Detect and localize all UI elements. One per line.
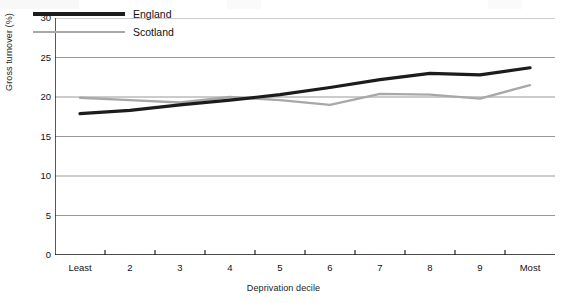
x-axis-title: Deprivation decile [0,283,567,293]
x-tick-label: 6 [304,262,356,273]
plot-svg [55,18,555,255]
legend-swatch-england-icon [33,12,125,15]
x-tick-label: Most [504,262,556,273]
x-tick-label: 4 [204,262,256,273]
x-tick-label: 8 [404,262,456,273]
y-tick-label: 0 [23,250,51,260]
legend-swatch-scotland-icon [33,31,125,34]
y-axis-title: Gross turnover (%) [4,0,14,112]
chart-legend: England Scotland [33,5,174,41]
legend-label-scotland: Scotland [133,26,174,38]
legend-item-england: England [33,5,174,23]
x-tick-label: 7 [354,262,406,273]
y-axis-tick-labels: 051015202530 [20,0,51,303]
y-tick-label: 10 [23,171,51,181]
y-tick-label: 25 [23,53,51,63]
x-tick-label: Least [54,262,106,273]
gross-turnover-line-chart: Gross turnover (%) 051015202530 Least234… [0,0,567,303]
y-tick-label: 5 [23,211,51,221]
legend-item-scotland: Scotland [33,23,174,41]
x-tick-label: 2 [104,262,156,273]
x-tick-label: 9 [454,262,506,273]
x-tick-label: 3 [154,262,206,273]
legend-label-england: England [133,8,172,20]
series-line-scotland [80,85,530,105]
x-tick-label: 5 [254,262,306,273]
y-tick-label: 15 [23,132,51,142]
series-line-england [80,68,530,114]
y-tick-label: 20 [23,92,51,102]
plot-area [55,18,555,255]
